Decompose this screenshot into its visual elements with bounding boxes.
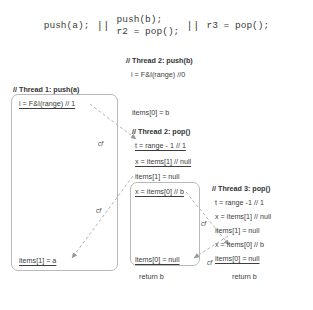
thread2-push-store-statement: items[0] = b <box>132 108 169 118</box>
thread3-pop-statements: t = range -1 // 1 x = items[1] // null i… <box>215 198 271 268</box>
thread2-pop-return: return b <box>139 272 164 282</box>
thread1-statement-first: i = F&I(range) // 1 <box>19 99 75 109</box>
thread2-pop-statement-1: t = range - 1 // 1 <box>135 141 186 151</box>
edge-label-cf-4: cf <box>207 259 212 266</box>
thread1-block-box <box>11 94 118 271</box>
thread2-pop-statement-3: items[1] = null <box>135 172 180 182</box>
thread3-pop-statement-5: items[0] = null <box>215 254 271 264</box>
thread3-pop-return: return b <box>232 272 257 282</box>
thread2-pop-statement-4: x = items[0] // b <box>135 187 184 197</box>
thread3-pop-statement-2: x = items[1] // null <box>215 212 271 222</box>
thread2-push-header: // Thread 2: push(b) <box>126 56 193 66</box>
diagram-canvas: push(a); || push(b); r2 = pop(); || r3 =… <box>0 0 313 310</box>
thread3-pop-statement-1: t = range -1 // 1 <box>215 198 271 208</box>
thread3-pop-statement-3: items[1] = null <box>215 226 271 236</box>
thread3-pop-header: // Thread 3: pop() <box>212 184 270 194</box>
thread3-pop-statement-4: x = items[0] // b <box>215 240 271 250</box>
edge-label-cf-3: cf <box>201 220 206 227</box>
thread2-pop-statement-2: x = items[1] // null <box>135 157 191 167</box>
thread1-statement-last: items[1] = a <box>19 256 56 266</box>
thread2-pop-header: // Thread 2: pop() <box>132 127 190 137</box>
thread2-push-statement: i = F&I(range) //0 <box>131 70 185 80</box>
thread2-pop-statement-5: items[0] = null <box>135 255 180 265</box>
